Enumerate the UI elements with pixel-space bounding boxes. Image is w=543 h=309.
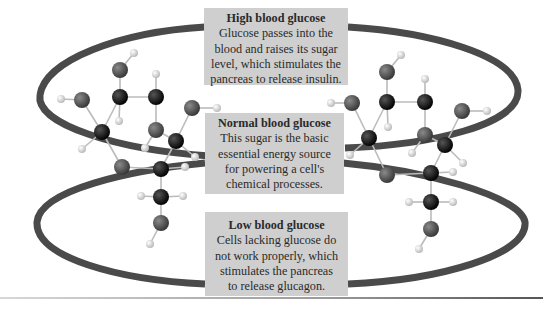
low-glucose-text: Cells lacking glucose do not work proper… [205, 233, 348, 294]
high-glucose-text: Glucose passes into the blood and raises… [204, 26, 348, 87]
normal-glucose-title: Normal blood glucose [205, 116, 344, 131]
bottom-divider [0, 297, 543, 299]
glucose-diagram: High blood glucose Glucose passes into t… [0, 0, 543, 309]
normal-glucose-text: This sugar is the basic essential energy… [205, 131, 344, 192]
high-glucose-title: High blood glucose [204, 11, 348, 26]
high-blood-glucose-box: High blood glucose Glucose passes into t… [204, 8, 348, 85]
low-glucose-title: Low blood glucose [205, 218, 348, 233]
glucose-molecule-right [327, 51, 491, 253]
oxygen-atom [112, 62, 128, 78]
low-blood-glucose-box: Low blood glucose Cells lacking glucose … [205, 212, 348, 296]
normal-blood-glucose-box: Normal blood glucose This sugar is the b… [205, 113, 344, 194]
